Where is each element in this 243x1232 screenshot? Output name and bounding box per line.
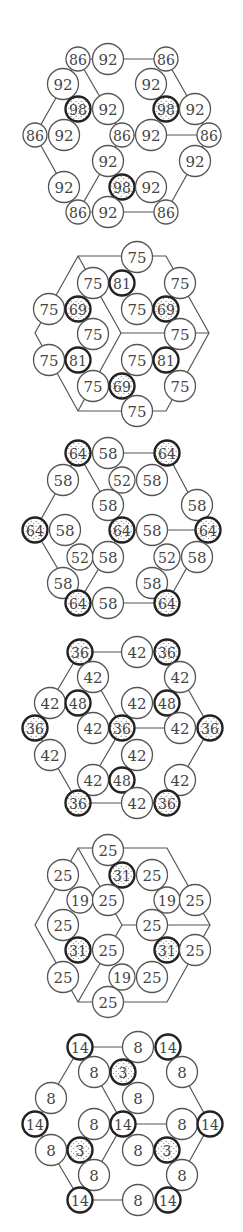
dotted-number-circle: 36 <box>66 791 91 816</box>
circle-value: 14 <box>159 1040 177 1056</box>
circle-value: 14 <box>114 1117 132 1133</box>
circle-value: 36 <box>71 645 89 661</box>
circle-value: 42 <box>127 747 146 765</box>
circle-value: 86 <box>157 205 175 221</box>
circle-value: 81 <box>113 276 131 292</box>
number-circle: 92 <box>93 146 124 177</box>
number-circle: 42 <box>122 788 153 819</box>
number-circle: 92 <box>93 94 124 125</box>
circle-value: 64 <box>158 596 176 612</box>
number-circle: 42 <box>122 740 153 771</box>
circle-value: 25 <box>142 867 161 885</box>
circle-value: 58 <box>53 472 72 490</box>
circle-value: 64 <box>69 446 87 462</box>
bold-number-circle: 14 <box>198 1112 223 1137</box>
circle-value: 36 <box>26 721 44 737</box>
circle-value: 75 <box>39 301 58 319</box>
hexagon-diagram: 252531251925192525253125312525192525 <box>35 835 211 1018</box>
circle-value: 92 <box>141 179 160 197</box>
circle-value: 86 <box>69 205 87 221</box>
dotted-number-circle: 98 <box>154 97 179 122</box>
circle-value: 75 <box>127 352 146 370</box>
number-circle: 25 <box>180 935 211 966</box>
hexagon-diagram: 6458645852585858645864586452585258585864… <box>23 438 221 619</box>
number-circle: 86 <box>66 47 90 71</box>
circle-value: 52 <box>158 550 176 566</box>
circle-value: 75 <box>83 326 102 344</box>
number-circle: 8 <box>123 1135 154 1166</box>
number-circle: 75 <box>165 268 196 299</box>
circle-value: 8 <box>133 1039 143 1057</box>
number-circle: 92 <box>49 120 80 151</box>
number-circle: 75 <box>78 319 109 350</box>
circle-value: 58 <box>142 472 161 490</box>
number-circle: 92 <box>49 172 80 203</box>
number-circle: 75 <box>78 371 109 402</box>
circle-value: 92 <box>141 127 160 145</box>
hexagon-diagrams: 8692869292989298928692869286929292989286… <box>23 44 223 1216</box>
circle-value: 3 <box>76 1143 85 1159</box>
bold-number-circle: 81 <box>154 348 179 373</box>
circle-value: 14 <box>71 1193 89 1209</box>
number-circle: 42 <box>78 713 109 744</box>
dotted-number-circle: 69 <box>154 297 179 322</box>
number-circle: 8 <box>123 1032 154 1063</box>
circle-value: 75 <box>170 275 189 293</box>
circle-value: 75 <box>83 378 102 396</box>
circle-value: 42 <box>83 772 102 790</box>
circle-value: 36 <box>158 796 176 812</box>
circle-value: 69 <box>113 379 131 395</box>
circle-value: 92 <box>98 101 117 119</box>
number-circle: 8 <box>123 1185 154 1216</box>
circle-value: 25 <box>98 942 117 960</box>
circle-value: 64 <box>26 523 44 539</box>
circle-value: 8 <box>133 1192 143 1210</box>
bold-number-circle: 14 <box>156 1188 181 1213</box>
circle-value: 8 <box>46 1090 56 1108</box>
circle-value: 14 <box>159 1193 177 1209</box>
number-circle: 8 <box>123 1083 154 1114</box>
circle-value: 86 <box>113 128 131 144</box>
number-circle: 75 <box>122 294 153 325</box>
circle-value: 75 <box>127 403 146 421</box>
circle-value: 58 <box>142 575 161 593</box>
number-circle: 75 <box>165 319 196 350</box>
number-circle: 58 <box>137 515 168 546</box>
number-circle: 19 <box>109 964 135 990</box>
hexagon-diagram: 3642364242424842483642364236424242484236… <box>23 637 223 819</box>
circle-value: 98 <box>157 102 175 118</box>
circle-value: 86 <box>26 128 44 144</box>
number-circle: 25 <box>93 885 124 916</box>
dotted-number-circle: 64 <box>196 518 221 543</box>
number-circle: 25 <box>137 910 168 941</box>
circle-value: 19 <box>71 893 89 909</box>
hexagon-diagram: 14814838881481481483838814814 <box>23 1032 223 1216</box>
circle-value: 42 <box>83 720 102 738</box>
circle-value: 92 <box>54 179 73 197</box>
circle-value: 81 <box>69 353 87 369</box>
circle-value: 25 <box>185 892 204 910</box>
number-circle: 42 <box>122 637 153 668</box>
circle-value: 75 <box>127 249 146 267</box>
number-circle: 86 <box>154 200 178 224</box>
circle-value: 36 <box>158 645 176 661</box>
bold-number-circle: 81 <box>66 348 91 373</box>
circle-value: 25 <box>142 917 161 935</box>
number-circle: 8 <box>167 1160 198 1191</box>
circle-value: 75 <box>39 352 58 370</box>
number-circle: 25 <box>93 987 124 1018</box>
dotted-number-circle: 36 <box>110 716 135 741</box>
number-circle: 86 <box>110 123 134 147</box>
circle-value: 52 <box>113 473 131 489</box>
dotted-number-circle: 36 <box>198 716 223 741</box>
number-circle: 8 <box>79 1109 110 1140</box>
circle-value: 36 <box>113 721 131 737</box>
dotted-number-circle: 36 <box>155 791 180 816</box>
number-circle: 75 <box>165 371 196 402</box>
number-circle: 75 <box>122 396 153 427</box>
number-circle: 8 <box>79 1160 110 1191</box>
number-circle: 92 <box>93 44 124 75</box>
number-circle: 25 <box>137 860 168 891</box>
number-circle: 58 <box>93 438 124 469</box>
circle-value: 92 <box>98 204 117 222</box>
